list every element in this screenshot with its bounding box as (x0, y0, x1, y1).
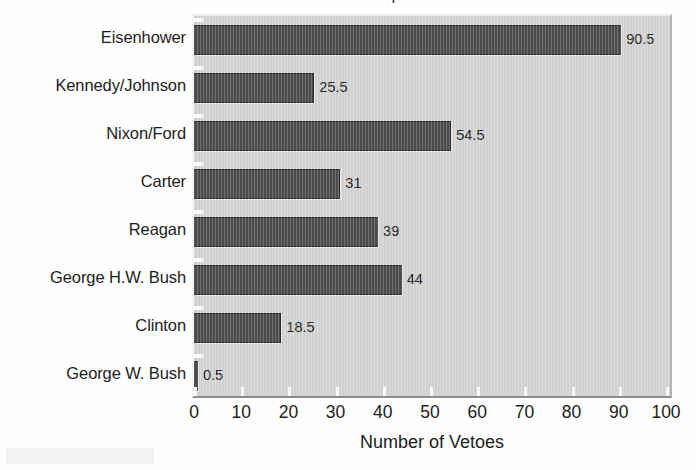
bar-value-label-1: 90.5 (626, 31, 654, 47)
bar-value-label-6: 44 (407, 271, 423, 287)
y-axis-tick-6 (194, 258, 203, 262)
x-axis-tick-label-10: 10 (231, 402, 250, 423)
bar-value-label-7: 18.5 (286, 319, 314, 335)
x-axis-tick-60 (477, 387, 480, 396)
bar-value-label-8: 0.5 (203, 367, 223, 383)
x-axis-tick-100 (666, 387, 669, 396)
x-axis-title: Number of Vetoes (192, 432, 672, 453)
y-axis-label-3: Nixon/Ford (0, 124, 186, 143)
y-axis-tick-3 (194, 114, 203, 118)
x-axis-tick-label-20: 20 (279, 402, 298, 423)
bar-value-label-3: 54.5 (456, 127, 484, 143)
y-axis-label-5: Reagan (0, 220, 186, 239)
bar-row: 25.5 (194, 73, 674, 103)
x-axis-tick-0 (194, 387, 197, 396)
y-axis-tick-7 (194, 306, 203, 310)
bar-4[interactable] (194, 169, 340, 199)
x-axis-tick-label-30: 30 (326, 402, 345, 423)
x-axis-tick-50 (430, 387, 433, 396)
bar-row: 18.5 (194, 313, 674, 343)
y-axis-tick-4 (194, 162, 203, 166)
y-axis-category-labels: EisenhowerKennedy/JohnsonNixon/FordCarte… (0, 14, 186, 398)
bar-value-label-4: 31 (345, 175, 361, 191)
clipped-chart-title-text: Presidential Vetoes per Year (0, 0, 696, 5)
x-axis-tick-10 (241, 387, 244, 396)
clipped-chart-title: Presidential Vetoes per Year (0, 0, 696, 9)
y-axis-tick-8 (194, 354, 203, 358)
bar-2[interactable] (194, 73, 314, 103)
x-axis-tick-label-40: 40 (373, 402, 392, 423)
x-axis-tick-40 (383, 387, 386, 396)
x-axis-tick-label-90: 90 (609, 402, 628, 423)
bar-5[interactable] (194, 217, 378, 247)
chart-figure: Presidential Vetoes per Year EisenhowerK… (0, 0, 696, 470)
x-axis-tick-label-0: 0 (189, 402, 199, 423)
y-axis-label-2: Kennedy/Johnson (0, 76, 186, 95)
x-axis-tick-label-70: 70 (515, 402, 534, 423)
bar-7[interactable] (194, 313, 281, 343)
x-axis-tick-80 (572, 387, 575, 396)
bar-row: 0.5 (194, 361, 674, 391)
bar-3[interactable] (194, 121, 451, 151)
y-axis-label-8: George W. Bush (0, 364, 186, 383)
bar-row: 54.5 (194, 121, 674, 151)
bar-value-label-5: 39 (383, 223, 399, 239)
y-axis-tick-1 (194, 18, 203, 22)
y-axis-tick-2 (194, 66, 203, 70)
scan-artifact (6, 448, 154, 464)
bar-1[interactable] (194, 25, 621, 55)
x-axis-tick-70 (524, 387, 527, 396)
x-axis-tick-labels: 0102030405060708090100 (192, 402, 672, 430)
y-axis-label-1: Eisenhower (0, 28, 186, 47)
x-axis-tick-label-50: 50 (420, 402, 439, 423)
plot-area: 90.525.554.531394418.50.5 (192, 14, 672, 398)
bar-value-label-2: 25.5 (319, 79, 347, 95)
x-axis-tick-label-60: 60 (467, 402, 486, 423)
x-axis-tick-90 (619, 387, 622, 396)
y-axis-label-7: Clinton (0, 316, 186, 335)
x-axis-tick-label-80: 80 (562, 402, 581, 423)
bar-row: 31 (194, 169, 674, 199)
x-axis-tick-30 (336, 387, 339, 396)
x-axis-tick-20 (288, 387, 291, 396)
bar-row: 39 (194, 217, 674, 247)
y-axis-tick-5 (194, 210, 203, 214)
y-axis-label-6: George H.W. Bush (0, 268, 186, 287)
x-axis-tick-label-100: 100 (651, 402, 680, 423)
bar-6[interactable] (194, 265, 402, 295)
y-axis-label-4: Carter (0, 172, 186, 191)
bar-row: 90.5 (194, 25, 674, 55)
bar-row: 44 (194, 265, 674, 295)
